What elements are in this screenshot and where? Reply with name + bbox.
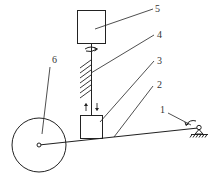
thread-hatching — [80, 60, 91, 98]
label-5: 5 — [155, 3, 160, 14]
leader-5 — [95, 9, 153, 29]
label-2: 2 — [157, 79, 162, 90]
mechanism-diagram: 5 4 3 2 1 6 — [0, 0, 212, 175]
leader-2 — [114, 86, 153, 137]
label-1: 1 — [160, 104, 165, 115]
leader-6 — [42, 67, 50, 134]
leader-lines — [42, 9, 191, 137]
pivot-support — [190, 125, 208, 137]
leader-3 — [100, 61, 154, 122]
label-3: 3 — [157, 55, 162, 66]
label-4: 4 — [157, 29, 162, 40]
leader-1 — [168, 113, 191, 125]
slider-block — [81, 116, 103, 139]
wheel-axle — [37, 143, 41, 147]
leader-4 — [91, 35, 154, 73]
label-6: 6 — [52, 54, 57, 65]
